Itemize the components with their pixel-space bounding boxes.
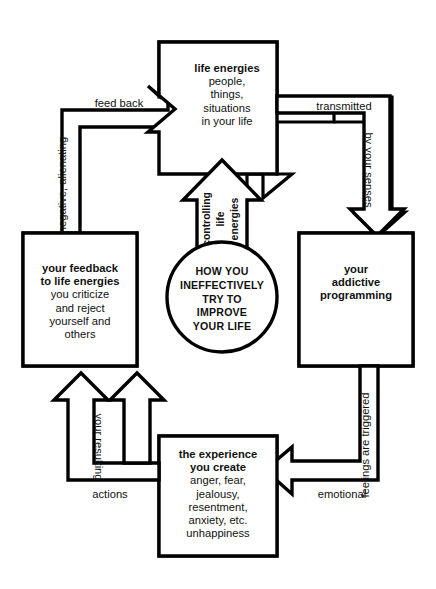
node-line: anxiety, etc. <box>163 514 273 527</box>
node-line: others <box>25 328 135 341</box>
diagram-canvas: life energies people, things, situations… <box>0 0 436 589</box>
edge-label-your-resulting: your resulting <box>91 395 105 499</box>
edge-label-by-your-senses: by your senses <box>361 115 375 225</box>
edge-label-negative-alienating: negative, alienating <box>56 115 70 255</box>
circle-line: HOW YOU <box>174 265 270 279</box>
center-arrow-label-controlling: controlling <box>201 183 215 255</box>
node-text-addictive-programming: your addictive programming <box>303 263 409 303</box>
node-text-the-experience: the experience you create anger, fear, j… <box>163 448 273 541</box>
arrowhead-into-left-box <box>110 373 164 463</box>
circle-line: IMPROVE <box>174 306 270 320</box>
node-heading-line: programming <box>303 289 409 302</box>
edge-top-to-right-inner <box>338 122 356 215</box>
node-heading-line: your <box>303 263 409 276</box>
node-line: you criticize <box>25 288 135 301</box>
node-heading-line: to life energies <box>25 275 135 288</box>
node-heading-life-energies: life energies <box>168 62 286 75</box>
center-arrow-label-life: life <box>215 183 229 255</box>
arrow-top-to-right <box>277 96 404 236</box>
arrowhead-right-lower <box>292 447 360 461</box>
edge-label-feed-back: feed back <box>78 97 160 110</box>
node-line: and reject <box>25 302 135 315</box>
node-heading-line: the experience <box>163 448 273 461</box>
edge-label-transmitted: transmitted <box>294 100 394 113</box>
node-line: situations <box>168 102 286 115</box>
node-heading-line: you create <box>163 461 273 474</box>
node-heading-line: your feedback <box>25 262 135 275</box>
node-text-your-feedback: your feedback to life energies you criti… <box>25 262 135 341</box>
node-line: yourself and <box>25 315 135 328</box>
node-line: unhappiness <box>163 527 273 540</box>
edge-label-actions: actions <box>72 488 148 501</box>
center-circle-text: HOW YOU INEFFECTIVELY TRY TO IMPROVE YOU… <box>174 265 270 334</box>
circle-line: TRY TO <box>174 293 270 307</box>
node-line: resentment, <box>163 501 273 514</box>
node-line: things, <box>168 88 286 101</box>
node-line: jealousy, <box>163 488 273 501</box>
node-heading-line: addictive <box>303 276 409 289</box>
node-line: in your life <box>168 115 286 128</box>
node-line: anger, fear, <box>163 474 273 487</box>
center-arrow-label-energies: energies <box>229 183 243 255</box>
circle-line: YOUR LIFE <box>174 320 270 334</box>
node-line: people, <box>168 75 286 88</box>
circle-line: INEFFECTIVELY <box>174 279 270 293</box>
edge-right-to-bottom <box>299 366 348 468</box>
node-text-life-energies: life energies people, things, situations… <box>168 62 286 128</box>
edge-label-feelings-are-triggered: feelings are triggered <box>359 372 373 518</box>
